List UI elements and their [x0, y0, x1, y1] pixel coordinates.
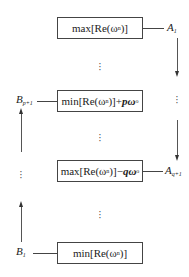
box-min-re-plus: min[Re(ωn)]+pωo	[57, 90, 143, 112]
connector-aq1	[143, 171, 163, 172]
box-text: )]	[120, 247, 127, 259]
box-text: )]	[121, 22, 128, 34]
box-subscript: o	[136, 168, 139, 174]
connector-b1	[33, 253, 57, 254]
box-text: )]−	[109, 165, 123, 177]
box-text: min[Re(ω	[73, 247, 117, 259]
arrow-b-up-2	[21, 205, 22, 242]
ellipsis-center-1: ···	[97, 62, 103, 71]
arrow-a-down-2	[177, 120, 178, 156]
connector-bp1	[37, 101, 57, 102]
label-bp1: Bp+1	[16, 93, 33, 106]
ellipsis-center-3: ···	[97, 210, 103, 219]
label-aq1: Aq+1	[165, 164, 182, 177]
box-text: max[Re(ω	[72, 22, 118, 34]
box-term: qω	[123, 165, 136, 177]
arrow-head-down	[175, 155, 179, 161]
box-subscript: o	[135, 98, 138, 104]
label-a1: A1	[167, 21, 177, 34]
arrow-head-up	[19, 201, 23, 207]
box-term: pω	[122, 95, 135, 107]
arrow-a-down-1	[177, 38, 178, 72]
box-text: max[Re(ω	[61, 165, 107, 177]
box-text: )]+	[108, 95, 122, 107]
connector-a1	[143, 28, 164, 29]
box-max-re: max[Re(ωn)]	[57, 17, 143, 39]
box-min-re: min[Re(ωn)]	[57, 242, 143, 264]
box-max-re-minus: max[Re(ωn)]−qωo	[57, 160, 143, 182]
box-text: min[Re(ω	[62, 95, 106, 107]
ellipsis-center-2: ···	[97, 133, 103, 142]
ellipsis-right: ···	[174, 95, 180, 104]
arrow-b-up-1	[21, 112, 22, 152]
arrow-head-down	[175, 71, 179, 77]
arrow-head-up	[19, 108, 23, 114]
label-b1: B1	[16, 245, 26, 258]
ellipsis-left: ···	[18, 170, 24, 179]
